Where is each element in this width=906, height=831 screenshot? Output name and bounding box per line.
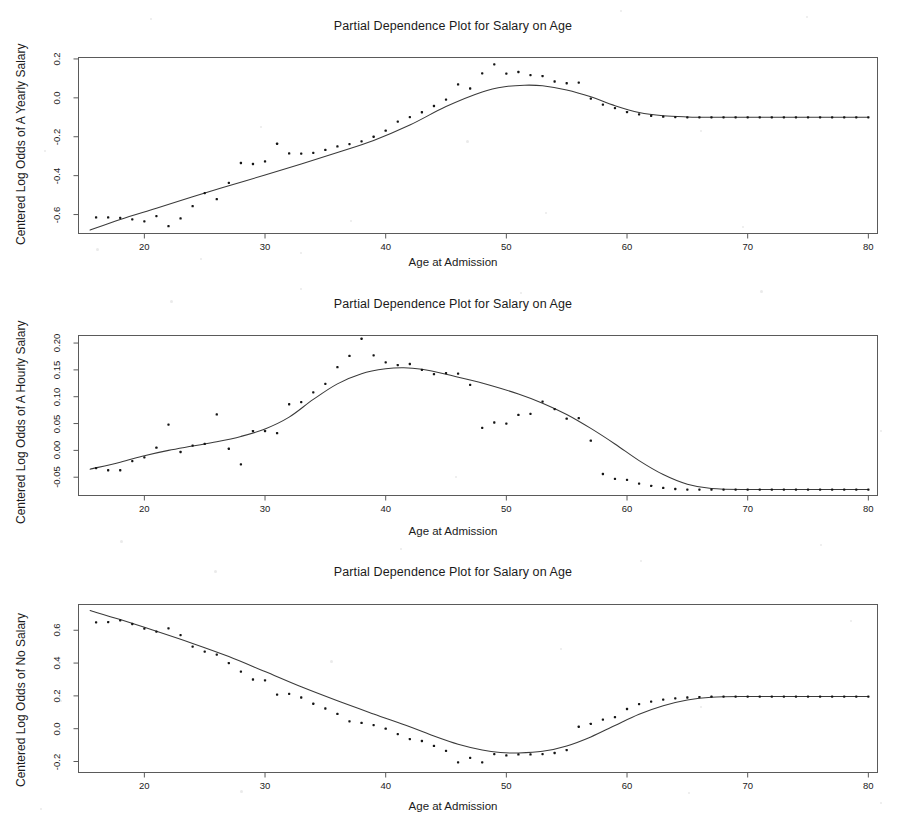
data-point (240, 162, 242, 164)
data-point (505, 72, 507, 74)
chart-panel-no-salary: Partial Dependence Plot for Salary on Ag… (0, 556, 906, 831)
data-point (602, 104, 604, 106)
x-tick-label: 40 (372, 241, 400, 252)
scan-artifact (60, 700, 62, 702)
data-point (795, 116, 797, 118)
data-point (167, 423, 169, 425)
data-point (590, 97, 592, 99)
data-point (674, 116, 676, 118)
data-point (119, 217, 121, 219)
plot-canvas (0, 278, 906, 556)
data-point (578, 726, 580, 728)
data-point (541, 753, 543, 755)
data-point (469, 757, 471, 759)
y-tick-label: 0.0 (50, 714, 64, 744)
data-point (469, 87, 471, 89)
data-point (276, 143, 278, 145)
data-point (626, 479, 628, 481)
data-point (385, 361, 387, 363)
data-point (167, 225, 169, 227)
data-point (228, 182, 230, 184)
data-point (686, 116, 688, 118)
data-point (107, 469, 109, 471)
data-point (119, 619, 121, 621)
data-point (264, 160, 266, 162)
data-point (167, 627, 169, 629)
scan-artifact (500, 575, 502, 577)
x-tick-label: 70 (734, 780, 762, 791)
data-point (771, 695, 773, 697)
data-point (831, 116, 833, 118)
data-point (819, 488, 821, 490)
data-point (204, 650, 206, 652)
data-point (228, 448, 230, 450)
data-point (698, 488, 700, 490)
data-point (529, 753, 531, 755)
data-point (759, 695, 761, 697)
data-point (855, 116, 857, 118)
scan-artifact (240, 790, 243, 793)
data-point (95, 621, 97, 623)
x-tick-label: 60 (613, 503, 641, 514)
x-tick-label: 30 (251, 780, 279, 791)
data-point (131, 623, 133, 625)
data-point (638, 113, 640, 115)
data-point (855, 488, 857, 490)
scan-artifact (760, 290, 763, 293)
scan-artifact (688, 792, 690, 794)
y-tick-label: 0.4 (50, 648, 64, 678)
data-point (674, 488, 676, 490)
data-point (397, 364, 399, 366)
data-point (288, 152, 290, 154)
data-point (372, 724, 374, 726)
data-point (517, 753, 519, 755)
data-point (204, 192, 206, 194)
chart-panel-hourly-salary: Partial Dependence Plot for Salary on Ag… (0, 278, 906, 556)
x-tick-label: 60 (613, 780, 641, 791)
scan-artifact (150, 18, 152, 20)
data-point (107, 216, 109, 218)
scan-artifact (200, 258, 202, 260)
scan-artifact (806, 16, 808, 18)
scan-artifact (25, 420, 27, 422)
data-point (819, 695, 821, 697)
data-point (614, 716, 616, 718)
x-tick-label: 50 (492, 780, 520, 791)
data-point (191, 444, 193, 446)
data-point (397, 733, 399, 735)
data-point (493, 63, 495, 65)
data-point (276, 693, 278, 695)
x-tick-label: 60 (613, 241, 641, 252)
scan-artifact (214, 570, 217, 573)
y-tick-label: -0.4 (50, 161, 64, 191)
scan-artifact (300, 252, 302, 254)
scan-artifact (455, 476, 457, 478)
data-point (650, 700, 652, 702)
data-point (385, 728, 387, 730)
x-tick-label: 20 (130, 503, 158, 514)
data-point (469, 384, 471, 386)
data-point (300, 401, 302, 403)
x-tick-label: 30 (251, 241, 279, 252)
data-point (433, 745, 435, 747)
data-point (433, 105, 435, 107)
data-point (252, 678, 254, 680)
data-point (553, 80, 555, 82)
data-point (771, 116, 773, 118)
scan-artifact (620, 10, 622, 12)
y-tick-label: -0.2 (50, 747, 64, 777)
data-point (336, 713, 338, 715)
data-point (722, 695, 724, 697)
data-point (119, 469, 121, 471)
scan-artifact (466, 140, 469, 143)
data-point (179, 217, 181, 219)
data-point (409, 116, 411, 118)
data-point (553, 408, 555, 410)
data-point (288, 693, 290, 695)
data-point (783, 695, 785, 697)
data-point (155, 447, 157, 449)
data-point (360, 140, 362, 142)
data-point (252, 430, 254, 432)
scan-artifact (820, 544, 822, 546)
data-point (638, 483, 640, 485)
